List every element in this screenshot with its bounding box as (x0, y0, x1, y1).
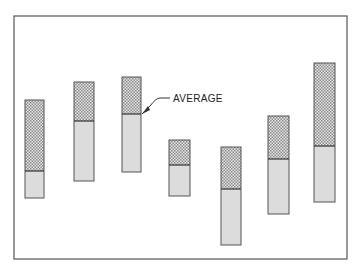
bar-lower-range (122, 114, 141, 172)
bar-upper-range (169, 140, 190, 165)
bar-upper-range (268, 116, 289, 159)
diagram-frame (14, 16, 347, 259)
bar-lower-range (25, 171, 44, 198)
bar-lower-range (221, 189, 241, 245)
bar-lower-range (314, 146, 335, 202)
bar-lower-range (169, 165, 190, 196)
bar-lower-range (74, 121, 94, 181)
range-bar (74, 82, 94, 181)
range-bar (25, 100, 44, 198)
range-bar (268, 116, 289, 214)
bar-upper-range (25, 100, 44, 171)
range-bar-diagram: AVERAGE (0, 0, 358, 272)
bar-upper-range (221, 147, 241, 189)
range-bar (314, 63, 335, 202)
average-annotation: AVERAGE (142, 93, 223, 115)
bar-upper-range (314, 63, 335, 146)
bar-upper-range (122, 77, 141, 114)
average-label: AVERAGE (173, 93, 223, 104)
range-bar (169, 140, 190, 196)
range-bar (221, 147, 241, 245)
bar-upper-range (74, 82, 94, 121)
bars-group (25, 63, 335, 245)
range-bar (122, 77, 141, 172)
bar-lower-range (268, 159, 289, 214)
